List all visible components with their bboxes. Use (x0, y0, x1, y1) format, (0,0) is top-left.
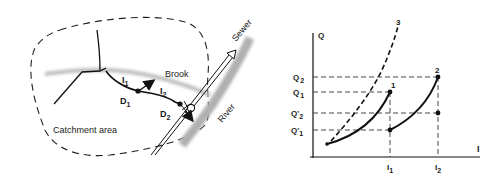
curve-1 (327, 92, 390, 144)
y-tick-q2: Q2 (293, 73, 304, 84)
river-label: River (216, 102, 237, 125)
q-i-chart: Q I Q2 Q1 Q'2 Q'1 I1 I2 (291, 18, 480, 174)
y-tick-q-prime-2: Q'2 (291, 109, 303, 120)
diagram-canvas: Brook Catchment area Sewer River I1 I2 D… (0, 0, 502, 183)
river-band (182, 38, 250, 145)
arrow-d1-outflow (140, 81, 153, 90)
discharge-label-d1: D1 (120, 96, 131, 108)
point-i1-q-prime-1 (388, 128, 393, 133)
x-tick-i2: I2 (435, 163, 441, 174)
brook-label: Brook (165, 69, 189, 79)
sewer-pipe (151, 50, 236, 155)
curve-label-3: 3 (396, 18, 401, 27)
y-tick-q1: Q1 (293, 88, 304, 99)
curve-label-2: 2 (435, 66, 440, 75)
y-axis-label: Q (318, 31, 324, 40)
catchment-map: Brook Catchment area Sewer River I1 I2 D… (31, 17, 254, 155)
point-start (325, 142, 329, 146)
catchment-label: Catchment area (53, 125, 117, 135)
point-i1-q1 (388, 90, 393, 95)
guide-lines (313, 77, 438, 157)
point-i2-q-prime-2 (436, 111, 441, 116)
curve-label-1: 1 (391, 81, 396, 90)
x-axis-label: I (477, 144, 480, 154)
point-i2-q2 (436, 75, 441, 80)
discharge-label-d2: D2 (160, 109, 171, 121)
x-tick-i1: I1 (387, 163, 393, 174)
y-tick-q-prime-1: Q'1 (291, 126, 303, 137)
curve-2 (390, 77, 438, 130)
curve-3 (331, 26, 398, 141)
stream-branch-north (97, 30, 100, 70)
node-d1 (135, 88, 140, 93)
